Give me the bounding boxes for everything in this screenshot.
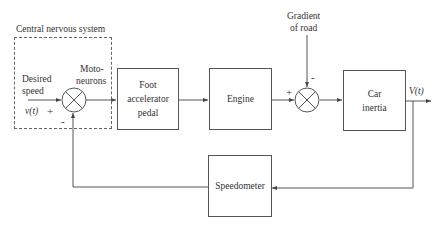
car-label-2: inertia [362, 101, 386, 115]
car-label-1: Car [362, 87, 386, 101]
sum1-minus-sign: - [61, 116, 65, 127]
block-car-inertia: Car inertia [343, 70, 406, 131]
gradient-label-2: of road [290, 23, 317, 34]
gradient-label-1: Gradient [287, 11, 320, 22]
block-speedometer: Speedometer [208, 155, 272, 217]
engine-label: Engine [227, 92, 254, 106]
motoneurons-label-2: neurons [76, 76, 106, 87]
output-signal-label: V(t) [409, 86, 424, 97]
summing-junction-2 [295, 88, 319, 112]
cns-group-label: Central nervous system [16, 24, 105, 35]
block-engine: Engine [209, 68, 272, 130]
input-signal-label: v(t) [25, 106, 38, 117]
desired-speed-label-2: speed [22, 86, 44, 97]
sum2-plus-sign: + [286, 87, 292, 98]
desired-speed-label-1: Desired [22, 74, 52, 85]
motoneurons-label-1: Moto- [80, 64, 104, 75]
block-foot-accelerator-pedal: Foot accelerator pedal [117, 68, 179, 130]
foot-label-2: accelerator [127, 92, 169, 106]
foot-label-3: pedal [127, 106, 169, 120]
speedometer-label: Speedometer [215, 179, 265, 193]
foot-label-1: Foot [127, 78, 169, 92]
sum2-minus-sign: - [311, 72, 315, 83]
sum1-plus-sign: + [47, 106, 53, 117]
